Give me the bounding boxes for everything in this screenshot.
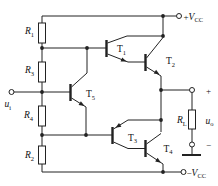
t5-emitter-arrow [79, 101, 85, 106]
resistor-rl [189, 110, 196, 129]
label-r1: R1 [24, 26, 34, 38]
label-t4: T4 [164, 144, 174, 156]
vcc-plus-terminal [177, 14, 182, 19]
t4-emitter-arrow [155, 158, 161, 163]
circuit-diagram: R1 R3 R4 R2 T1 T2 T3 T4 T5 +VCC −VCC ui … [0, 0, 218, 186]
circuit-schematic: R1 R3 R4 R2 T1 T2 T3 T4 T5 +VCC −VCC ui … [0, 0, 218, 186]
transistor-t2 [146, 38, 164, 77]
label-r4: R4 [23, 110, 34, 122]
label-t2: T2 [166, 56, 175, 68]
resistor-r2 [39, 146, 46, 164]
label-output-minus: − [206, 140, 211, 150]
resistor-r1 [39, 23, 46, 43]
label-r3: R3 [24, 65, 34, 77]
label-vcc-plus: +VCC [184, 12, 204, 24]
resistor-r3 [39, 62, 46, 82]
output-minus-terminal [190, 142, 195, 147]
label-t3: T3 [128, 133, 137, 145]
input-terminal [9, 90, 14, 95]
label-t5: T5 [86, 89, 95, 101]
label-ui: ui [5, 99, 12, 111]
label-uo: uo [206, 116, 214, 128]
t2-emitter-arrow [154, 70, 160, 75]
vcc-minus-terminal [181, 170, 186, 175]
output-plus-terminal [190, 88, 195, 93]
transistor-t4 [146, 134, 164, 165]
label-t1: T1 [117, 44, 126, 56]
transistor-t3 [113, 120, 162, 149]
label-vcc-minus: −VCC [187, 168, 207, 180]
t3-emitter-arrow [116, 123, 122, 128]
label-r2: R2 [24, 150, 34, 162]
t1-emitter-arrow [121, 57, 127, 61]
transistor-t5 [71, 73, 88, 107]
label-output-plus: + [206, 86, 211, 96]
label-rl: RL [176, 115, 187, 127]
resistor-r4 [39, 106, 46, 126]
